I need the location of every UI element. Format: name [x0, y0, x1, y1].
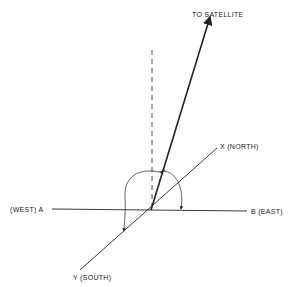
- east-west-axis: [52, 209, 247, 211]
- north-label: X (NORTH): [220, 143, 259, 151]
- east-label: B (EAST): [251, 208, 283, 216]
- satellite-angle-diagram: TO SATELLITE X (NORTH) (WEST) A B (EAST)…: [0, 0, 299, 287]
- azimuth-arc: [124, 171, 160, 231]
- south-label: Y (SOUTH): [73, 274, 111, 282]
- west-label: (WEST) A: [10, 206, 44, 214]
- north-south-axis: [80, 148, 217, 270]
- satellite-label: TO SATELLITE: [192, 11, 244, 18]
- elevation-arc: [165, 171, 182, 209]
